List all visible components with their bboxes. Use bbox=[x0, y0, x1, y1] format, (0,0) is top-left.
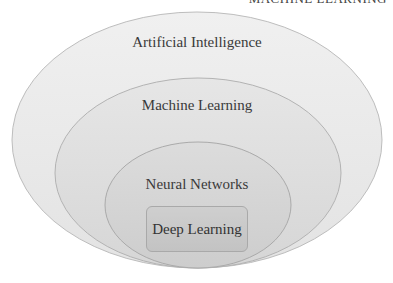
label-artificial-intelligence: Artificial Intelligence bbox=[132, 34, 262, 51]
label-neural-networks: Neural Networks bbox=[146, 176, 249, 193]
label-machine-learning: Machine Learning bbox=[142, 97, 252, 114]
deep-learning-box: Deep Learning bbox=[146, 206, 248, 252]
label-deep-learning: Deep Learning bbox=[152, 221, 242, 238]
